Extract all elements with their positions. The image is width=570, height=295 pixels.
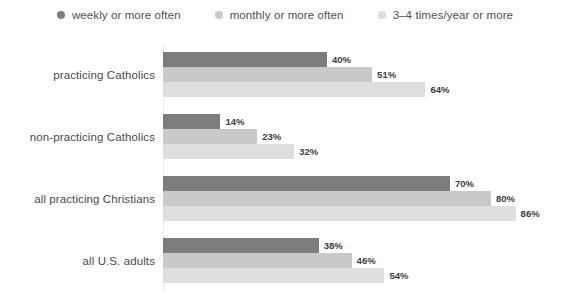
legend-item-label: 3–4 times/year or more: [393, 9, 513, 21]
legend-item-label: weekly or more often: [72, 9, 181, 21]
chart-bar: [163, 144, 294, 159]
chart-bar-value-label: 32%: [294, 144, 318, 159]
chart-group: all U.S. adults38%46%54%: [0, 238, 570, 283]
chart-bar: [163, 67, 372, 82]
chart-bar-value-label: 40%: [327, 52, 351, 67]
chart-bar-value-label: 38%: [319, 238, 343, 253]
legend-dot-icon: [378, 11, 386, 19]
chart-bar-value-label: 23%: [257, 129, 281, 144]
legend-item-yearly: 3–4 times/year or more: [378, 9, 513, 21]
chart-legend: weekly or more often monthly or more oft…: [0, 0, 570, 30]
chart-bar-value-label: 80%: [491, 191, 515, 206]
chart-bar-value-label: 70%: [450, 176, 474, 191]
chart-bar-value-label: 14%: [220, 114, 244, 129]
chart-group: practicing Catholics40%51%64%: [0, 52, 570, 97]
chart-bar: [163, 206, 516, 221]
legend-item-weekly: weekly or more often: [57, 9, 181, 21]
chart-bar: [163, 114, 220, 129]
chart-bar: [163, 129, 257, 144]
chart-category-label: all practicing Christians: [0, 176, 155, 221]
chart-group: all practicing Christians70%80%86%: [0, 176, 570, 221]
legend-item-label: monthly or more often: [230, 9, 344, 21]
chart-bar: [163, 82, 425, 97]
chart-bar-value-label: 54%: [384, 268, 408, 283]
chart-bar-value-label: 64%: [425, 82, 449, 97]
chart-bar: [163, 191, 491, 206]
legend-item-monthly: monthly or more often: [215, 9, 344, 21]
chart-plot-area: practicing Catholics40%51%64%non-practic…: [0, 30, 570, 295]
legend-dot-icon: [57, 11, 65, 19]
chart-bar: [163, 253, 352, 268]
chart-category-label: non-practicing Catholics: [0, 114, 155, 159]
chart-bar-value-label: 51%: [372, 67, 396, 82]
chart-category-label: practicing Catholics: [0, 52, 155, 97]
chart-category-label: all U.S. adults: [0, 238, 155, 283]
chart-bar-value-label: 46%: [352, 253, 376, 268]
legend-dot-icon: [215, 11, 223, 19]
chart-bar: [163, 268, 384, 283]
chart-group: non-practicing Catholics14%23%32%: [0, 114, 570, 159]
chart-bar: [163, 176, 450, 191]
chart-bar: [163, 52, 327, 67]
chart-bar: [163, 238, 319, 253]
chart-bar-value-label: 86%: [516, 206, 540, 221]
